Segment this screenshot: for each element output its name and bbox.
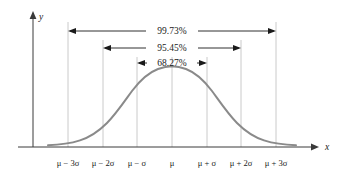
dimension-95-45: 95.45%	[103, 43, 241, 53]
figure-canvas: y x 99.73% 95.45%	[0, 0, 339, 183]
arrow-left-icon	[68, 28, 76, 34]
y-axis-label: y	[38, 12, 44, 22]
y-axis-arrow-icon	[30, 11, 37, 19]
tick-label-mu-minus-sigma: μ − σ	[128, 158, 147, 168]
tick-label-mu-minus-2sigma: μ − 2σ	[92, 158, 115, 168]
arrow-right-icon	[268, 28, 276, 34]
arrow-left-icon	[137, 60, 145, 66]
tick-label-mu-minus-3sigma: μ − 3σ	[57, 158, 80, 168]
tick-label-group: μ − 3σ μ − 2σ μ − σ μ μ + σ μ + 2σ μ + 3…	[57, 158, 288, 168]
dimension-68-27: 68.27%	[137, 58, 207, 68]
tick-label-mu: μ	[170, 158, 175, 168]
tick-label-mu-plus-3sigma: μ + 3σ	[265, 158, 288, 168]
arrow-left-icon	[103, 45, 111, 51]
tick-label-mu-plus-2sigma: μ + 2σ	[230, 158, 253, 168]
dimension-99-73: 99.73%	[68, 26, 276, 36]
dimension-95-45-label: 95.45%	[157, 43, 186, 53]
normal-distribution-figure: y x 99.73% 95.45%	[0, 0, 339, 183]
dimension-68-27-label: 68.27%	[157, 58, 186, 68]
gridline-group	[68, 22, 276, 147]
x-axis-label: x	[324, 142, 330, 152]
tick-label-mu-plus-sigma: μ + σ	[198, 158, 217, 168]
y-axis: y	[30, 11, 44, 147]
arrow-right-icon	[233, 45, 241, 51]
x-axis-arrow-icon	[311, 144, 319, 151]
arrow-right-icon	[199, 60, 207, 66]
dimension-99-73-label: 99.73%	[157, 26, 186, 36]
